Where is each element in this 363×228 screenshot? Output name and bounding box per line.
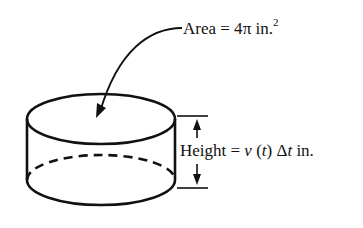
area-label-pi: π	[243, 19, 252, 38]
height-label-unit: in.	[292, 141, 314, 160]
area-label: Area = 4π in.2	[183, 17, 278, 39]
height-arrow-up-head	[193, 119, 201, 130]
height-label-paren-close: ) Δ	[267, 141, 288, 160]
cylinder-top-ellipse	[27, 94, 175, 144]
area-pointer-arrowhead	[96, 103, 106, 118]
cylinder-bottom-front-arc	[27, 180, 175, 205]
cylinder-bottom-back-arc-dashed	[27, 155, 175, 180]
area-pointer-curve	[100, 28, 182, 112]
height-label-paren-open: (	[252, 141, 262, 160]
height-label-v: v	[244, 141, 252, 160]
area-label-prefix: Area = 4	[183, 19, 243, 38]
area-label-unit: in.	[251, 19, 273, 38]
height-label-prefix: Height =	[180, 141, 244, 160]
cylinder-diagram	[0, 0, 363, 228]
area-label-exponent: 2	[273, 16, 279, 28]
height-arrow-down-head	[193, 174, 201, 185]
height-label: Height = v (t) Δt in.	[180, 141, 314, 161]
